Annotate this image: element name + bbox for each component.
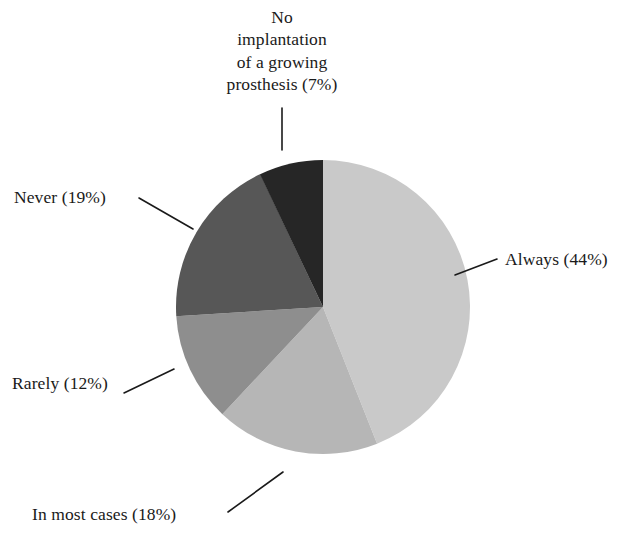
leader-line-rarely: [124, 369, 174, 393]
pie-label-in-most-cases: In most cases (18%): [32, 503, 176, 525]
leader-line-in-most-cases: [228, 472, 283, 512]
pie-label-no-implantation-line3: of a growing: [196, 51, 368, 73]
pie-label-no-implantation: No implantation of a growing prosthesis …: [196, 6, 368, 96]
pie-label-no-implantation-line2: implantation: [196, 28, 368, 50]
leader-line-never: [139, 198, 193, 229]
pie-label-rarely: Rarely (12%): [12, 372, 108, 394]
pie-chart-figure: No implantation of a growing prosthesis …: [0, 0, 623, 538]
pie-label-always: Always (44%): [505, 248, 608, 270]
pie-label-no-implantation-line1: No: [196, 6, 368, 28]
pie-slices: [176, 160, 470, 454]
pie-label-never: Never (19%): [14, 186, 106, 208]
pie-label-no-implantation-line4: prosthesis (7%): [196, 73, 368, 95]
